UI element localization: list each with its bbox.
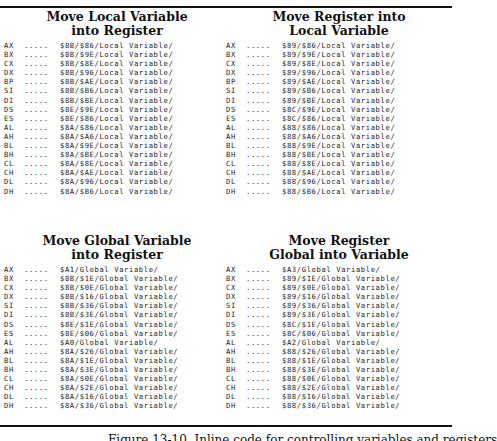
register-label: AX	[4, 41, 24, 50]
code-row: BH.....$88/$3E/Global Variable/	[226, 365, 452, 374]
leader-dots: .....	[24, 159, 60, 168]
register-label: BH	[4, 150, 24, 159]
register-label: AX	[226, 265, 246, 274]
leader-dots: .....	[24, 141, 60, 150]
code-row: DS.....$8C/$9E/Local Variable/	[226, 105, 452, 114]
code-row: BX.....$8B/$9E/Local Variable/	[4, 50, 230, 59]
opcode-text: $88/$16/Global Variable/	[282, 392, 400, 401]
opcode-text: $8A/$96/Local Variable/	[60, 177, 173, 186]
register-label: AX	[226, 41, 246, 50]
opcode-text: $8A/$26/Global Variable/	[60, 347, 178, 356]
opcode-text: $8B/$36/Global Variable/	[60, 301, 178, 310]
code-row: CH.....$88/$2E/Global Variable/	[226, 383, 452, 392]
opcode-text: $A0/Global Variable/	[60, 338, 159, 347]
code-row: SI.....$89/$B6/Local Variable/	[226, 86, 452, 95]
opcode-text: $89/$96/Local Variable/	[282, 68, 395, 77]
code-table: AX.....$A3/Global Variable/BX.....$89/$1…	[226, 265, 452, 411]
code-row: SI.....$89/$36/Global Variable/	[226, 301, 452, 310]
leader-dots: .....	[246, 187, 282, 196]
register-label: DS	[4, 105, 24, 114]
code-row: CH.....$8A/$AE/Local Variable/	[4, 168, 230, 177]
register-label: CL	[4, 159, 24, 168]
leader-dots: .....	[24, 383, 60, 392]
leader-dots: .....	[24, 177, 60, 186]
opcode-text: $8A/$AE/Local Variable/	[60, 168, 173, 177]
section-title-line1: Move Global Variable	[4, 234, 230, 248]
code-row: DH.....$88/$B6/Local Variable/	[226, 187, 452, 196]
opcode-text: $A3/Global Variable/	[282, 265, 381, 274]
leader-dots: .....	[246, 401, 282, 410]
opcode-text: $8A/$86/Local Variable/	[60, 123, 173, 132]
code-row: AL.....$A0/Global Variable/	[4, 338, 230, 347]
register-label: BL	[226, 141, 246, 150]
code-row: CL.....$88/$0E/Global Variable/	[226, 374, 452, 383]
register-label: DH	[4, 401, 24, 410]
code-row: BL.....$8A/$9E/Local Variable/	[4, 141, 230, 150]
section-title-line2: into Register	[4, 248, 230, 262]
code-row: DX.....$89/$16/Global Variable/	[226, 292, 452, 301]
leader-dots: .....	[24, 374, 60, 383]
code-row: BH.....$88/$BE/Local Variable/	[226, 150, 452, 159]
opcode-text: $89/$86/Local Variable/	[282, 41, 395, 50]
section-register-into-local: Move Register into Local Variable AX....…	[226, 10, 452, 196]
code-row: CL.....$8A/$8E/Local Variable/	[4, 159, 230, 168]
register-label: BL	[4, 356, 24, 365]
opcode-text: $8E/$9E/Local Variable/	[60, 105, 173, 114]
register-label: AH	[4, 132, 24, 141]
leader-dots: .....	[246, 283, 282, 292]
register-label: DS	[226, 320, 246, 329]
register-label: CH	[4, 168, 24, 177]
opcode-text: $8A/$16/Global Variable/	[60, 392, 178, 401]
register-label: DL	[4, 392, 24, 401]
opcode-text: $88/$9E/Local Variable/	[282, 141, 395, 150]
code-row: DX.....$8B/$96/Local Variable/	[4, 68, 230, 77]
section-title-line1: Move Register into	[226, 10, 452, 24]
code-row: DS.....$8C/$1E/Global Variable/	[226, 320, 452, 329]
opcode-text: $89/$B6/Local Variable/	[282, 86, 395, 95]
section-title-line2: into Register	[4, 24, 230, 38]
opcode-text: $89/$BE/Local Variable/	[282, 96, 395, 105]
register-label: ES	[4, 329, 24, 338]
leader-dots: .....	[24, 274, 60, 283]
leader-dots: .....	[246, 96, 282, 105]
register-label: BP	[4, 77, 24, 86]
code-row: AL.....$A2/Global Variable/	[226, 338, 452, 347]
code-row: ES.....$8C/$06/Global Variable/	[226, 329, 452, 338]
code-row: ES.....$8C/$86/Local Variable/	[226, 114, 452, 123]
register-label: CX	[4, 59, 24, 68]
leader-dots: .....	[24, 168, 60, 177]
code-row: CH.....$88/$AE/Local Variable/	[226, 168, 452, 177]
bottom-rule	[0, 425, 452, 427]
opcode-text: $8B/$9E/Local Variable/	[60, 50, 173, 59]
register-label: SI	[4, 86, 24, 95]
opcode-text: $8B/$16/Global Variable/	[60, 292, 178, 301]
code-table: AX.....$A1/Global Variable/BX.....$8B/$1…	[4, 265, 230, 411]
leader-dots: .....	[246, 177, 282, 186]
opcode-text: $89/$AE/Local Variable/	[282, 77, 395, 86]
code-row: DS.....$8E/$1E/Global Variable/	[4, 320, 230, 329]
figure-caption-clip: Figure 13-10. Inline code for controllin…	[108, 433, 497, 441]
code-table: AX.....$8B/$86/Local Variable/BX.....$8B…	[4, 41, 230, 196]
opcode-text: $89/$9E/Local Variable/	[282, 50, 395, 59]
section-local-into-register: Move Local Variable into Register AX....…	[4, 10, 230, 196]
code-row: DX.....$8B/$16/Global Variable/	[4, 292, 230, 301]
code-row: AL.....$8A/$86/Local Variable/	[4, 123, 230, 132]
opcode-text: $8E/$1E/Global Variable/	[60, 320, 178, 329]
leader-dots: .....	[24, 329, 60, 338]
opcode-text: $8E/$06/Global Variable/	[60, 329, 178, 338]
leader-dots: .....	[246, 132, 282, 141]
code-row: DI.....$89/$3E/Global Variable/	[226, 310, 452, 319]
opcode-text: $88/$2E/Global Variable/	[282, 383, 400, 392]
opcode-text: $8B/$3E/Global Variable/	[60, 310, 178, 319]
section-global-into-register: Move Global Variable into Register AX...…	[4, 234, 230, 411]
opcode-text: $8A/$9E/Local Variable/	[60, 141, 173, 150]
leader-dots: .....	[246, 50, 282, 59]
register-label: DI	[4, 96, 24, 105]
register-label: CH	[226, 168, 246, 177]
opcode-text: $8E/$86/Local Variable/	[60, 114, 173, 123]
register-label: AL	[4, 123, 24, 132]
code-row: ES.....$8E/$06/Global Variable/	[4, 329, 230, 338]
opcode-text: $88/$3E/Global Variable/	[282, 365, 400, 374]
code-row: SI.....$8B/$36/Global Variable/	[4, 301, 230, 310]
register-label: BX	[4, 50, 24, 59]
